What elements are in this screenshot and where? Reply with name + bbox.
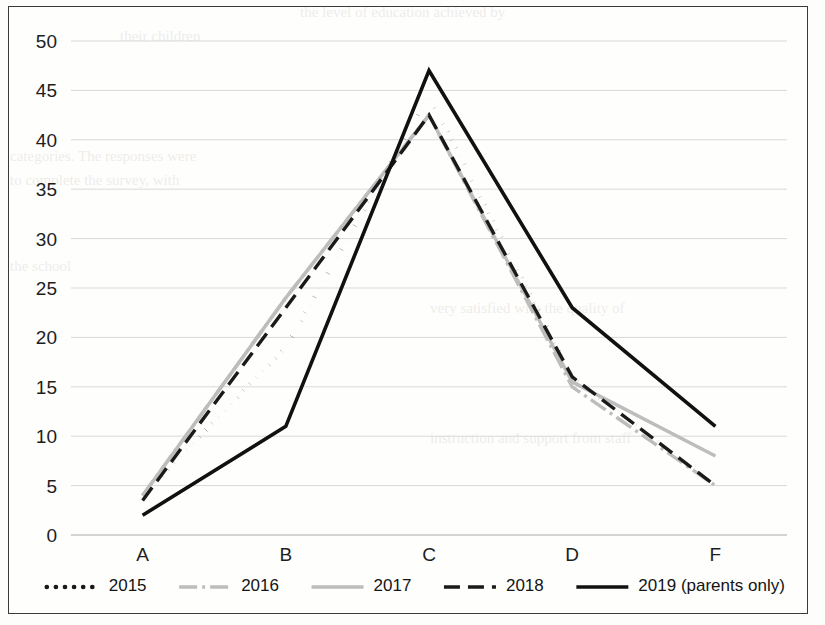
chart-svg: 05101520253035404550 ABCDF 2015201620172… [9, 7, 809, 615]
series-line [143, 115, 716, 495]
legend-label: 2019 (parents only) [638, 576, 784, 595]
series-line [143, 71, 716, 516]
y-tick-label: 15 [36, 377, 57, 398]
series-line [143, 115, 716, 500]
y-axis-tick-labels: 05101520253035404550 [36, 31, 57, 546]
x-tick-label: F [710, 544, 722, 565]
legend-label: 2017 [374, 576, 412, 595]
y-tick-label: 45 [36, 80, 57, 101]
series-line [143, 115, 716, 495]
y-tick-label: 50 [36, 31, 57, 52]
chart-frame: 05101520253035404550 ABCDF 2015201620172… [8, 6, 808, 614]
x-tick-label: B [279, 544, 292, 565]
series-line [143, 95, 716, 495]
y-tick-label: 25 [36, 278, 57, 299]
chart-legend: 20152016201720182019 (parents only) [47, 576, 785, 595]
x-tick-label: D [565, 544, 579, 565]
x-axis-tick-labels: ABCDF [136, 544, 721, 565]
legend-label: 2018 [506, 576, 544, 595]
y-tick-label: 0 [46, 525, 57, 546]
y-tick-label: 30 [36, 229, 57, 250]
legend-label: 2016 [241, 576, 279, 595]
line-chart: 05101520253035404550 ABCDF 2015201620172… [9, 7, 809, 615]
x-tick-label: C [422, 544, 436, 565]
y-tick-label: 10 [36, 426, 57, 447]
legend-label: 2015 [109, 576, 147, 595]
y-tick-label: 20 [36, 327, 57, 348]
y-tick-label: 40 [36, 130, 57, 151]
series-lines [143, 71, 716, 516]
y-tick-label: 35 [36, 179, 57, 200]
y-tick-label: 5 [46, 476, 57, 497]
x-tick-label: A [136, 544, 149, 565]
